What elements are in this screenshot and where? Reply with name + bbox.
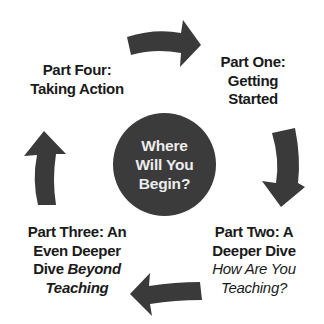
- part-four-label: Part Four: Taking Action: [17, 61, 137, 98]
- part-three-beyond: Beyond: [68, 260, 121, 277]
- part-four-line-2: Taking Action: [17, 80, 137, 99]
- center-circle: Where Will You Begin?: [113, 113, 216, 216]
- part-two-italic-line-1: How Are You: [200, 260, 308, 279]
- center-line-2: Will You: [136, 155, 194, 174]
- center-line-3: Begin?: [139, 174, 190, 193]
- part-two-line-2: Deeper Dive: [200, 242, 308, 261]
- part-two-label: Part Two: A Deeper Dive How Are You Teac…: [200, 223, 308, 297]
- part-two-line-1: Part Two: A: [200, 223, 308, 242]
- curved-arrow-down-icon: [262, 128, 305, 207]
- cycle-diagram: Where Will You Begin? Part One: Getting …: [0, 0, 324, 324]
- part-three-teaching: Teaching: [46, 279, 109, 296]
- part-one-line-1: Part One:: [206, 53, 300, 72]
- curved-arrow-up-icon: [24, 131, 66, 205]
- curved-arrow-right-icon: [127, 20, 201, 67]
- part-three-dive: Dive: [33, 260, 64, 277]
- part-three-line-1: Part Three: An: [12, 223, 142, 242]
- part-three-line-3: Dive Beyond: [12, 260, 142, 279]
- part-three-line-2: Even Deeper: [12, 242, 142, 261]
- part-four-line-1: Part Four:: [17, 61, 137, 80]
- part-one-line-3: Started: [206, 90, 300, 109]
- part-three-label: Part Three: An Even Deeper Dive Beyond T…: [12, 223, 142, 297]
- center-line-1: Where: [141, 136, 187, 155]
- part-one-line-2: Getting: [206, 72, 300, 91]
- part-two-italic-line-2: Teaching?: [200, 279, 308, 298]
- part-three-line-4: Teaching: [12, 279, 142, 298]
- part-one-label: Part One: Getting Started: [206, 53, 300, 109]
